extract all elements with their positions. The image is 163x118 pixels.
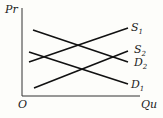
origin-label: O [18, 98, 27, 111]
x-axis-label: Qu [141, 98, 157, 111]
supply-demand-chart: Pr O Qu S1 S2 D2 D1 [0, 0, 163, 118]
label-d1: D1 [130, 78, 144, 93]
label-d2: D2 [133, 56, 148, 71]
label-s1: S1 [131, 21, 143, 36]
y-axis-label: Pr [4, 3, 18, 16]
